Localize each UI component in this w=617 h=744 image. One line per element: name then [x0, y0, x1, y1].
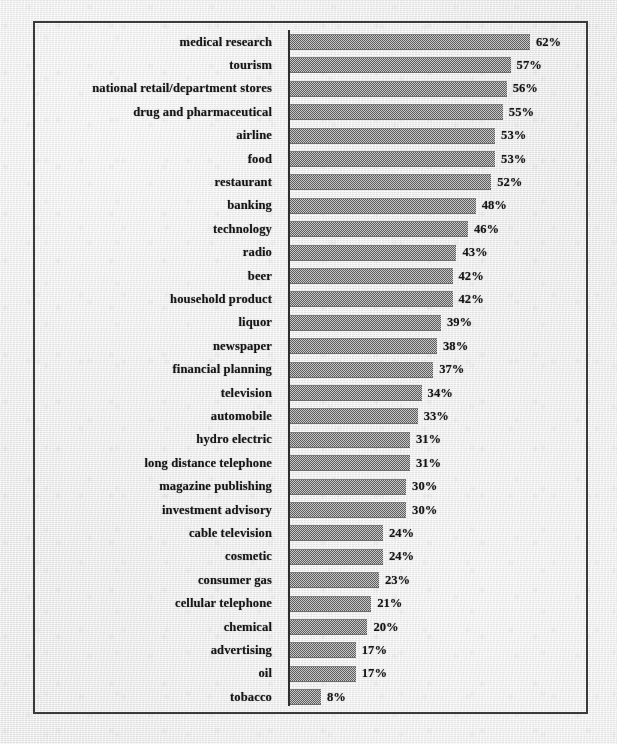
value-label: 57%	[517, 59, 542, 72]
bar-row: hydro electric31%	[35, 428, 586, 451]
category-label: medical research	[26, 36, 272, 49]
category-label: cellular telephone	[26, 597, 272, 610]
bar-container: 17%	[290, 639, 586, 662]
plot-area: medical research62%tourism57%national re…	[35, 23, 586, 712]
category-label: beer	[26, 270, 272, 283]
bar	[290, 385, 422, 401]
bar	[290, 619, 367, 635]
category-label: banking	[26, 199, 272, 212]
value-label: 24%	[389, 527, 414, 540]
value-label: 42%	[459, 270, 484, 283]
bar-container: 52%	[290, 171, 586, 194]
bar-container: 53%	[290, 147, 586, 170]
category-label: consumer gas	[26, 574, 272, 587]
bar	[290, 128, 495, 144]
bar	[290, 291, 453, 307]
bar	[290, 221, 468, 237]
category-label: tobacco	[26, 691, 272, 704]
bar-container: 56%	[290, 77, 586, 100]
bar-container: 31%	[290, 452, 586, 475]
category-label: chemical	[26, 621, 272, 634]
category-label: liquor	[26, 316, 272, 329]
value-label: 48%	[482, 199, 507, 212]
bar-container: 20%	[290, 615, 586, 638]
category-label: investment advisory	[26, 504, 272, 517]
bar-container: 62%	[290, 30, 586, 53]
bar	[290, 268, 453, 284]
value-label: 21%	[377, 597, 402, 610]
category-label: tourism	[26, 59, 272, 72]
bar-row: newspaper38%	[35, 335, 586, 358]
bar	[290, 642, 356, 658]
bar-row: banking48%	[35, 194, 586, 217]
bar-row: drug and pharmaceutical55%	[35, 101, 586, 124]
bar-container: 8%	[290, 686, 586, 709]
value-label: 31%	[416, 457, 441, 470]
category-label: restaurant	[26, 176, 272, 189]
bar-row: technology46%	[35, 218, 586, 241]
category-label: national retail/department stores	[26, 82, 272, 95]
bar-row: airline53%	[35, 124, 586, 147]
bar	[290, 572, 379, 588]
bar-row: medical research62%	[35, 30, 586, 53]
category-label: financial planning	[26, 363, 272, 376]
bar-row: food53%	[35, 147, 586, 170]
bar	[290, 666, 356, 682]
value-label: 42%	[459, 293, 484, 306]
bar-row: long distance telephone31%	[35, 452, 586, 475]
category-label: airline	[26, 129, 272, 142]
bar-container: 21%	[290, 592, 586, 615]
category-label: household product	[26, 293, 272, 306]
value-label: 56%	[513, 82, 538, 95]
category-label: cable television	[26, 527, 272, 540]
value-label: 37%	[439, 363, 464, 376]
bar	[290, 198, 476, 214]
bar-container: 34%	[290, 381, 586, 404]
bar-row: beer42%	[35, 264, 586, 287]
bar-row: tourism57%	[35, 54, 586, 77]
bar	[290, 455, 410, 471]
bar	[290, 689, 321, 705]
bar-container: 57%	[290, 54, 586, 77]
value-label: 30%	[412, 480, 437, 493]
bar-container: 53%	[290, 124, 586, 147]
category-label: hydro electric	[26, 433, 272, 446]
category-label: magazine publishing	[26, 480, 272, 493]
category-label: automobile	[26, 410, 272, 423]
bar	[290, 408, 418, 424]
bar-row: tobacco8%	[35, 686, 586, 709]
bar-container: 55%	[290, 101, 586, 124]
bar-container: 30%	[290, 498, 586, 521]
bar-container: 31%	[290, 428, 586, 451]
category-label: technology	[26, 223, 272, 236]
value-label: 53%	[501, 129, 526, 142]
bar	[290, 245, 456, 261]
value-label: 34%	[428, 387, 453, 400]
bar-row: household product42%	[35, 288, 586, 311]
bar	[290, 81, 507, 97]
bar	[290, 502, 406, 518]
bar	[290, 338, 437, 354]
category-label: newspaper	[26, 340, 272, 353]
category-label: food	[26, 153, 272, 166]
value-label: 43%	[462, 246, 487, 259]
value-label: 53%	[501, 153, 526, 166]
bar-row: cable television24%	[35, 522, 586, 545]
bar	[290, 432, 410, 448]
value-label: 31%	[416, 433, 441, 446]
bar-row: cellular telephone21%	[35, 592, 586, 615]
bar	[290, 362, 433, 378]
bar-container: 23%	[290, 569, 586, 592]
category-label: drug and pharmaceutical	[26, 106, 272, 119]
value-label: 33%	[424, 410, 449, 423]
bar-row: investment advisory30%	[35, 498, 586, 521]
bar-row: financial planning37%	[35, 358, 586, 381]
bar-container: 43%	[290, 241, 586, 264]
bar	[290, 549, 383, 565]
bar	[290, 479, 406, 495]
value-label: 38%	[443, 340, 468, 353]
bar-row: chemical20%	[35, 615, 586, 638]
value-label: 52%	[497, 176, 522, 189]
bar-row: consumer gas23%	[35, 569, 586, 592]
bar-container: 42%	[290, 264, 586, 287]
